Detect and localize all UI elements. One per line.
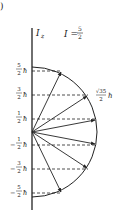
axis-label: I — [35, 28, 40, 38]
svg-text:ħ: ħ — [23, 67, 27, 75]
spin-equation-lhs: I = — [63, 29, 78, 39]
level-label-0: 5 2 ħ — [16, 62, 27, 76]
svg-text:3: 3 — [17, 160, 21, 166]
svg-text:−: − — [10, 165, 15, 173]
svg-text:2: 2 — [17, 168, 21, 174]
vector-magnitude-semicircle — [32, 67, 97, 197]
axis-subscript: z — [40, 32, 45, 39]
magnitude-den: 2 — [99, 96, 103, 102]
svg-text:ħ: ħ — [23, 91, 27, 99]
level-label-1: 3 2 ħ — [16, 86, 27, 100]
svg-text:3: 3 — [17, 86, 21, 92]
svg-text:−: − — [10, 141, 15, 149]
level-lines — [32, 71, 96, 193]
level-label-2: 1 2 ħ — [16, 110, 27, 124]
spin-equation-den: 2 — [78, 33, 82, 40]
svg-text:2: 2 — [17, 144, 21, 150]
svg-text:1: 1 — [17, 110, 21, 116]
level-label-4: − 3 2 ħ — [10, 160, 27, 174]
svg-text:2: 2 — [17, 94, 21, 100]
svg-text:2: 2 — [17, 192, 21, 198]
svg-text:ħ: ħ — [23, 165, 27, 173]
svg-text:5: 5 — [17, 62, 21, 68]
spin-vectors — [32, 72, 95, 192]
level-label-5: − 5 2 ħ — [10, 184, 27, 198]
svg-text:ħ: ħ — [23, 141, 27, 149]
svg-text:5: 5 — [17, 184, 21, 190]
spin-equation-num: 5 — [78, 25, 82, 32]
magnitude-unit: ħ — [108, 92, 113, 100]
svg-text:2: 2 — [17, 70, 21, 76]
level-label-3: − 1 2 ħ — [10, 136, 27, 150]
svg-text:2: 2 — [17, 118, 21, 124]
svg-text:ħ: ħ — [23, 189, 27, 197]
svg-text:−: − — [10, 189, 15, 197]
magnitude-num: √35 — [96, 88, 107, 94]
svg-text:1: 1 — [17, 136, 21, 142]
panel-label: ) — [0, 1, 4, 11]
spin-quantization-diagram: ) I z I = 5 2 √35 2 ħ 5 2 ħ 3 — [0, 0, 120, 210]
svg-text:ħ: ħ — [23, 115, 27, 123]
